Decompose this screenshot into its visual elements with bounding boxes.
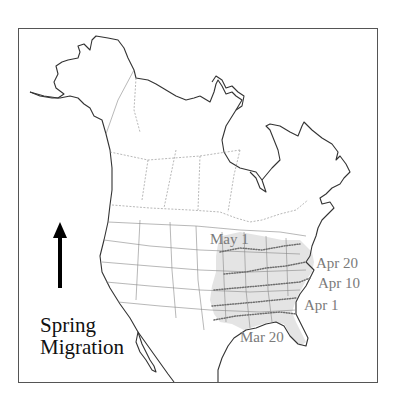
map-title-line2: Migration [40,336,124,358]
coastline-arctic [200,80,266,192]
isochrone-label-may-1: May 1 [210,232,249,247]
province-borders [110,78,240,212]
coastline-alaska [30,36,200,100]
isochrone-label-mar-20: Mar 20 [240,330,284,345]
isochrone-label-apr-1: Apr 1 [304,298,339,313]
alaska-canada-border [106,70,134,134]
up-arrow-icon [52,222,68,288]
isochrone-label-apr-10: Apr 10 [318,276,360,291]
us-canada-border [112,200,308,222]
coastline-baja [136,332,156,372]
map-title-line1: Spring [40,314,124,336]
map-title: Spring Migration [40,314,124,358]
isochrone-label-apr-20: Apr 20 [316,256,358,271]
